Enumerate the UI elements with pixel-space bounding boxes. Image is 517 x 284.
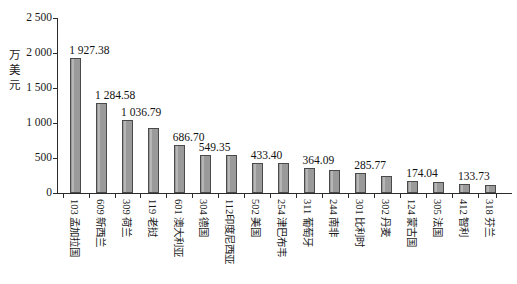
x-tick-mark [89, 194, 90, 198]
bar-chart: 万 美 元 05001 0001 5002 0002 500 1 927.381… [0, 0, 517, 284]
bar [433, 182, 444, 193]
x-axis-category-label: 318 芬兰 [484, 199, 495, 237]
x-axis-category-label: 302 丹麦 [380, 199, 391, 237]
x-axis-category-label: 601 澳大利亚 [173, 199, 184, 257]
bar-value-label: 285.77 [354, 159, 386, 171]
bar [278, 163, 289, 193]
bar [485, 185, 496, 193]
bar-value-label: 1 927.38 [69, 44, 109, 56]
x-axis-category-label: 305 法国 [432, 199, 443, 237]
bar-value-label: 133.73 [458, 170, 490, 182]
y-tick-mark [53, 88, 57, 89]
bar [148, 128, 159, 193]
x-tick-mark [115, 194, 116, 198]
bar [304, 168, 315, 193]
x-axis-category-label: 244 南非 [328, 199, 339, 237]
y-axis-ticks: 05001 0001 5002 0002 500 [0, 0, 52, 284]
y-tick-label: 1 500 [6, 82, 52, 93]
x-tick-mark [218, 194, 219, 198]
x-tick-mark [374, 194, 375, 198]
bar [329, 170, 340, 193]
bar [200, 155, 211, 193]
bar [96, 103, 107, 193]
bar [226, 155, 237, 193]
x-axis-category-label: 609 新西兰 [95, 199, 106, 247]
y-tick-mark [53, 158, 57, 159]
bar [459, 184, 470, 193]
y-tick-mark [53, 123, 57, 124]
bar [252, 163, 263, 193]
x-tick-mark [426, 194, 427, 198]
x-tick-mark [244, 194, 245, 198]
y-tick-mark [53, 53, 57, 54]
x-tick-mark [478, 194, 479, 198]
x-axis-category-label: 309 荷兰 [121, 199, 132, 237]
x-tick-mark [452, 194, 453, 198]
bar [381, 176, 392, 193]
x-axis-category-label: 311 葡萄牙 [302, 199, 313, 247]
bar-value-label: 1 036.79 [121, 106, 161, 118]
x-axis-category-label: 301 比利时 [354, 199, 365, 247]
y-tick-label: 1 000 [6, 117, 52, 128]
x-axis-category-label: 412 智利 [458, 199, 469, 237]
x-tick-mark [166, 194, 167, 198]
x-axis-category-label: 119 老挝 [147, 199, 158, 237]
bar-value-label: 433.40 [251, 149, 283, 161]
bar [70, 58, 81, 193]
x-tick-mark [192, 194, 193, 198]
x-axis-category-label: 103 孟加拉国 [69, 199, 80, 257]
x-axis-category-label: 112印度尼西亚 [224, 199, 235, 264]
x-axis-category-label: 124 蒙古国 [406, 199, 417, 247]
x-tick-mark [140, 194, 141, 198]
y-tick-label: 2 500 [6, 12, 52, 23]
bar [407, 181, 418, 193]
bar [122, 120, 133, 193]
bar [355, 173, 366, 193]
y-tick-label: 500 [6, 152, 52, 163]
y-axis-line [57, 18, 58, 194]
x-tick-mark [400, 194, 401, 198]
x-tick-mark [63, 194, 64, 198]
x-axis-line [57, 193, 512, 194]
bar-value-label: 1 284.58 [95, 89, 135, 101]
x-axis-category-label: 304 德国 [198, 199, 209, 237]
x-axis-category-label: 502 美国 [250, 199, 261, 237]
bar-value-label: 549.35 [199, 141, 231, 153]
x-axis-category-label: 254 津巴布韦 [276, 199, 287, 257]
x-tick-mark [270, 194, 271, 198]
bar [174, 145, 185, 193]
bar-value-label: 364.09 [303, 154, 335, 166]
bar-value-label: 174.04 [406, 167, 438, 179]
x-tick-mark [496, 194, 497, 198]
y-tick-label: 2 000 [6, 47, 52, 58]
x-tick-mark [296, 194, 297, 198]
x-tick-mark [322, 194, 323, 198]
y-tick-mark [53, 18, 57, 19]
y-tick-mark [53, 193, 57, 194]
x-tick-mark [348, 194, 349, 198]
y-tick-label: 0 [6, 187, 52, 198]
